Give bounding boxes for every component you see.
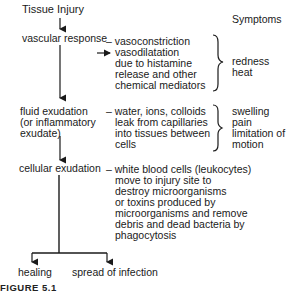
symptoms-header: Symptoms [232,14,282,26]
start-label: Tissue Injury [22,4,84,16]
brace-fluid-symptoms [213,105,222,151]
figure-caption: FIGURE 5.1 [0,282,57,293]
stage-cellular-label: cellular exudation [19,163,101,175]
outcome-spread-of-infection: spread of infection [72,267,158,279]
stage-vascular-label: vascular response [22,33,107,45]
brace-vascular-symptoms [213,35,223,91]
outcome-healing: healing [18,267,52,279]
